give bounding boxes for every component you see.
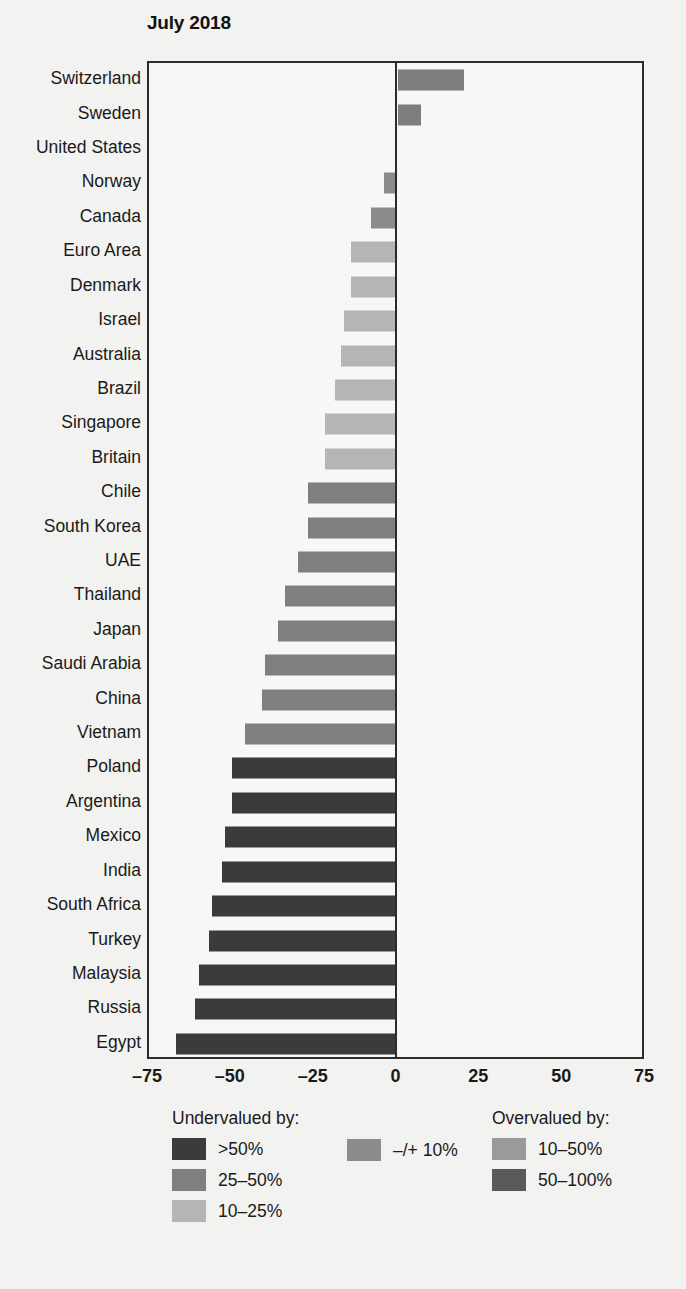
legend-heading-undervalued: Undervalued by: (172, 1108, 299, 1129)
y-axis-label: Thailand (0, 585, 141, 603)
y-axis-label: Vietnam (0, 723, 141, 741)
x-axis-tick: 0 (390, 1066, 400, 1087)
plot-area (147, 61, 644, 1059)
bar (325, 414, 398, 435)
y-axis-label: Britain (0, 448, 141, 466)
y-axis-label: Turkey (0, 930, 141, 948)
bar (335, 379, 398, 400)
y-axis-label: Brazil (0, 379, 141, 397)
bar (265, 655, 398, 676)
y-axis-label: United States (0, 138, 141, 156)
y-axis-label: India (0, 861, 141, 879)
y-axis-label: Poland (0, 757, 141, 775)
legend-entries-undervalued: >50%25–50%10–25% (172, 1138, 299, 1222)
y-axis-label: Norway (0, 172, 141, 190)
bar (232, 758, 398, 779)
legend-overvalued-item: 10–50% (492, 1138, 612, 1160)
legend-group-overvalued: Overvalued by: 10–50%50–100% (492, 1108, 612, 1200)
y-axis-label: UAE (0, 551, 141, 569)
x-axis-tick: –75 (132, 1066, 162, 1087)
legend-swatch (172, 1169, 206, 1191)
bar (351, 242, 397, 263)
legend-heading-overvalued: Overvalued by: (492, 1108, 612, 1129)
y-axis-label: Russia (0, 998, 141, 1016)
legend-label: 10–25% (218, 1201, 282, 1222)
bar (278, 620, 397, 641)
legend-group-undervalued: Undervalued by: >50%25–50%10–25% (172, 1108, 299, 1231)
legend-overvalued-item: 50–100% (492, 1169, 612, 1191)
legend-label: 10–50% (538, 1139, 602, 1160)
y-axis-label: Sweden (0, 104, 141, 122)
bar (371, 207, 398, 228)
legend-label: >50% (218, 1139, 263, 1160)
bar (341, 345, 397, 366)
bar (195, 999, 397, 1020)
x-axis-tick: 25 (468, 1066, 488, 1087)
legend-undervalued-item: >50% (172, 1138, 299, 1160)
bar (222, 861, 398, 882)
bar (325, 448, 398, 469)
y-axis-label: Singapore (0, 413, 141, 431)
bar (308, 483, 397, 504)
bar (398, 70, 464, 91)
y-axis-label: Egypt (0, 1033, 141, 1051)
legend-undervalued-item: 10–25% (172, 1200, 299, 1222)
bar (245, 724, 397, 745)
legend-swatch (347, 1139, 381, 1161)
legend-entries-overvalued: 10–50%50–100% (492, 1138, 612, 1191)
y-axis-label: Denmark (0, 276, 141, 294)
bar (344, 311, 397, 332)
bar (298, 551, 397, 572)
bar (176, 1033, 398, 1054)
bar (199, 964, 398, 985)
bar (232, 792, 398, 813)
bar (262, 689, 398, 710)
y-axis-label: Israel (0, 310, 141, 328)
x-axis-tick: –50 (215, 1066, 245, 1087)
legend-swatch (492, 1169, 526, 1191)
y-axis-label: Argentina (0, 792, 141, 810)
chart-title: July 2018 (147, 12, 231, 34)
y-axis-label: Japan (0, 620, 141, 638)
x-axis-tick: 50 (551, 1066, 571, 1087)
legend-label: 25–50% (218, 1170, 282, 1191)
y-axis-label: Canada (0, 207, 141, 225)
y-axis-label: China (0, 689, 141, 707)
y-axis-label: Mexico (0, 826, 141, 844)
legend-label: –/+ 10% (393, 1140, 458, 1161)
x-axis-tick: –25 (298, 1066, 328, 1087)
y-axis-label: Malaysia (0, 964, 141, 982)
legend-group-neutral: –/+ 10% (347, 1139, 458, 1170)
bar (398, 104, 421, 125)
y-axis-label: Chile (0, 482, 141, 500)
legend-swatch (492, 1138, 526, 1160)
y-axis-label: Saudi Arabia (0, 654, 141, 672)
bar (308, 517, 397, 538)
bar (285, 586, 398, 607)
legend-neutral-item: –/+ 10% (347, 1139, 458, 1161)
zero-axis-line (395, 63, 397, 1057)
y-axis-label: South Korea (0, 517, 141, 535)
legend-swatch (172, 1138, 206, 1160)
bar (212, 896, 398, 917)
x-axis-tick: 75 (634, 1066, 654, 1087)
y-axis-label: Australia (0, 345, 141, 363)
legend-entries-neutral: –/+ 10% (347, 1139, 458, 1161)
legend-undervalued-item: 25–50% (172, 1169, 299, 1191)
bar (225, 827, 397, 848)
legend-swatch (172, 1200, 206, 1222)
y-axis-label: Euro Area (0, 241, 141, 259)
bar (209, 930, 398, 951)
y-axis-label: South Africa (0, 895, 141, 913)
legend-label: 50–100% (538, 1170, 612, 1191)
bar (351, 276, 397, 297)
y-axis-label: Switzerland (0, 69, 141, 87)
